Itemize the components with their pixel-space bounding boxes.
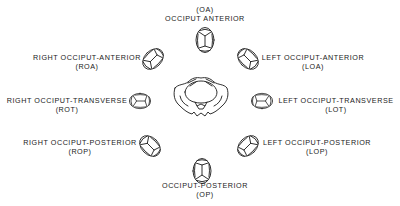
head-loa-icon bbox=[234, 45, 263, 74]
head-oa-icon bbox=[196, 28, 214, 53]
head-op-icon bbox=[193, 159, 211, 184]
head-lot-icon bbox=[251, 93, 272, 108]
head-rot-icon bbox=[129, 93, 150, 108]
diagram-canvas bbox=[0, 0, 400, 206]
head-lop-icon bbox=[234, 132, 263, 161]
head-roa-icon bbox=[139, 45, 168, 74]
head-rop-icon bbox=[136, 132, 165, 161]
pelvis-icon bbox=[174, 78, 228, 116]
